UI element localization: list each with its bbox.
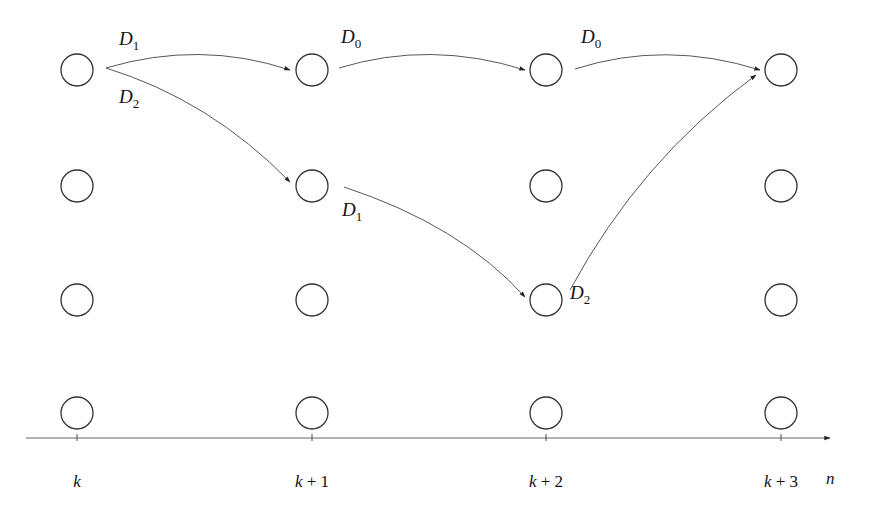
axis-label-n: n bbox=[826, 469, 835, 488]
node-c3-r0 bbox=[765, 54, 797, 86]
node-c0-r3 bbox=[61, 397, 93, 429]
edge-k-r0-to-k1-r1 bbox=[106, 68, 290, 182]
node-c2-r2 bbox=[530, 284, 562, 316]
trellis-diagram: D1 D2 D0 D0 D1 D2 k k + 1 k + 2 k + 3 n bbox=[0, 0, 876, 516]
edge-label-d1-top: D1 bbox=[118, 28, 139, 53]
edge-k1-r0-to-k2-r0 bbox=[339, 54, 525, 70]
edge-label-d0-right: D0 bbox=[580, 26, 601, 51]
node-c0-r2 bbox=[61, 284, 93, 316]
edge-k2-r2-to-k3-r0 bbox=[570, 75, 756, 290]
edge-label-d1-lower: D1 bbox=[341, 199, 362, 224]
node-c1-r2 bbox=[296, 284, 328, 316]
edge-label-d2: D2 bbox=[118, 86, 139, 111]
node-c0-r0 bbox=[61, 54, 93, 86]
node-c3-r3 bbox=[765, 397, 797, 429]
node-c2-r1 bbox=[530, 170, 562, 202]
edge-label-d0-mid: D0 bbox=[340, 26, 361, 51]
nodes bbox=[61, 54, 797, 429]
edges bbox=[106, 54, 760, 297]
node-c1-r3 bbox=[296, 397, 328, 429]
node-c1-r1 bbox=[296, 170, 328, 202]
tick-label-k-plus-2: k + 2 bbox=[529, 472, 563, 491]
node-c0-r1 bbox=[61, 170, 93, 202]
node-c3-r2 bbox=[765, 284, 797, 316]
tick-label-k-plus-1: k + 1 bbox=[295, 472, 329, 491]
node-c2-r0 bbox=[530, 54, 562, 86]
time-axis: k k + 1 k + 2 k + 3 n bbox=[26, 434, 835, 491]
tick-label-k-plus-3: k + 3 bbox=[764, 472, 798, 491]
edge-label-d2-lower: D2 bbox=[569, 282, 590, 307]
edge-k1-r1-to-k2-r2 bbox=[344, 187, 525, 297]
node-c1-r0 bbox=[296, 54, 328, 86]
edge-k-r0-to-k1-r0 bbox=[106, 54, 290, 70]
node-c2-r3 bbox=[530, 397, 562, 429]
edge-labels: D1 D2 D0 D0 D1 D2 bbox=[118, 26, 601, 307]
node-c3-r1 bbox=[765, 170, 797, 202]
tick-label-k: k bbox=[73, 472, 81, 491]
edge-k2-r0-to-k3-r0 bbox=[575, 55, 760, 70]
